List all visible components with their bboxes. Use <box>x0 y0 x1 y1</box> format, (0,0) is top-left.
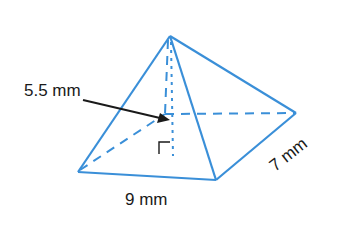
edge-apex-left <box>78 36 170 172</box>
height-line <box>171 42 173 156</box>
hidden-edge-back <box>165 113 296 114</box>
base-width-label: 7 mm <box>266 134 311 175</box>
hidden-edges <box>80 40 296 170</box>
hidden-edge-left <box>80 114 165 170</box>
edge-apex-right <box>170 36 296 113</box>
height-arrow <box>83 100 170 123</box>
base-length-label: 9 mm <box>125 190 168 209</box>
height-label: 5.5 mm <box>24 81 81 100</box>
edge-apex-front <box>170 36 216 180</box>
right-angle-marker <box>159 142 170 154</box>
hidden-edge-apex-back <box>165 40 168 114</box>
visible-edges <box>78 36 296 180</box>
pyramid-diagram: 5.5 mm 9 mm 7 mm <box>0 0 340 245</box>
edge-base-front <box>78 172 216 180</box>
